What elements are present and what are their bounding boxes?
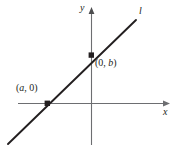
point-marker-x-intercept xyxy=(45,101,50,106)
line-label-l: l xyxy=(139,6,142,16)
point-label-x-intercept: (a, 0) xyxy=(16,83,38,93)
point-label-x-intercept-suffix: , 0) xyxy=(24,82,37,93)
point-label-y-intercept: (0, b) xyxy=(95,58,117,68)
line-graph-figure: y x l (0, b) (a, 0) xyxy=(0,0,178,156)
point-label-y-intercept-suffix: ) xyxy=(113,57,116,68)
y-axis-arrowhead xyxy=(89,7,95,14)
point-label-y-intercept-prefix: (0, xyxy=(95,57,108,68)
x-axis-label: x xyxy=(163,107,167,117)
point-marker-y-intercept xyxy=(89,52,94,57)
graph-canvas xyxy=(0,0,178,156)
y-axis-label: y xyxy=(80,3,84,13)
